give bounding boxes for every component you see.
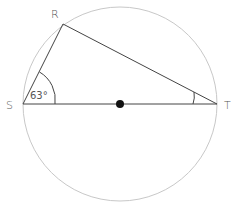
circle-diagram: R S T 63° xyxy=(0,0,237,208)
angle-arc-T xyxy=(193,92,194,104)
label-S: S xyxy=(6,99,13,112)
label-R: R xyxy=(51,8,59,21)
label-T: T xyxy=(224,99,231,112)
center-dot xyxy=(116,100,124,108)
angle-label-S: 63° xyxy=(30,90,48,101)
side-RT xyxy=(63,24,217,104)
